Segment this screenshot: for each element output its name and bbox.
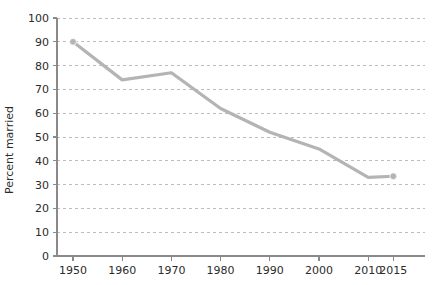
y-tick-label-40: 40	[35, 155, 49, 168]
line-chart: 0102030405060708090100195019601970198019…	[0, 0, 436, 285]
x-tick-label-1950: 1950	[59, 264, 87, 277]
chart-canvas: 0102030405060708090100195019601970198019…	[0, 0, 436, 285]
x-tick-label-2010: 2010	[354, 264, 382, 277]
x-tick-label-2000: 2000	[305, 264, 333, 277]
x-tick-label-2015: 2015	[379, 264, 407, 277]
x-tick-label-1980: 1980	[207, 264, 235, 277]
y-tick-label-80: 80	[35, 60, 49, 73]
data-point-1950	[70, 38, 77, 45]
y-tick-label-100: 100	[28, 12, 49, 25]
x-tick-label-1960: 1960	[108, 264, 136, 277]
y-tick-label-70: 70	[35, 83, 49, 96]
data-point-2015	[390, 173, 397, 180]
y-tick-label-10: 10	[35, 226, 49, 239]
y-tick-label-0: 0	[42, 250, 49, 263]
y-tick-label-90: 90	[35, 36, 49, 49]
series-line-percent-married	[73, 42, 393, 178]
y-tick-label-60: 60	[35, 107, 49, 120]
y-tick-label-20: 20	[35, 202, 49, 215]
y-tick-label-30: 30	[35, 179, 49, 192]
x-tick-label-1990: 1990	[256, 264, 284, 277]
x-tick-label-1970: 1970	[157, 264, 185, 277]
y-axis-title: Percent married	[3, 106, 16, 194]
y-tick-label-50: 50	[35, 131, 49, 144]
